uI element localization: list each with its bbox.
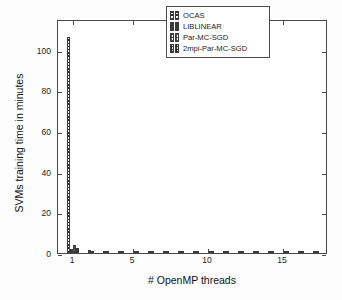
bar	[196, 251, 199, 253]
bar	[151, 251, 154, 253]
legend-swatch-group	[170, 22, 179, 31]
y-tick-label: 100	[37, 46, 51, 56]
bar	[67, 37, 70, 253]
x-axis-title: # OpenMP threads	[57, 274, 327, 286]
bar	[316, 251, 319, 253]
x-tick-label: 10	[202, 255, 211, 265]
y-tick-mark	[58, 92, 62, 93]
x-tick-mark	[73, 249, 74, 253]
legend-swatch	[175, 22, 179, 31]
bar	[121, 251, 124, 253]
bar	[211, 251, 214, 253]
legend-swatch	[170, 22, 174, 31]
figure-canvas: SVMs training time in minutes 0204060801…	[0, 0, 342, 300]
legend-item[interactable]: LIBLINEAR	[170, 21, 265, 31]
y-tick-label: 80	[42, 86, 51, 96]
y-tick-mark	[58, 174, 62, 175]
x-tick-mark	[73, 21, 74, 25]
x-tick-mark	[133, 249, 134, 253]
y-tick-mark	[322, 214, 326, 215]
y-tick-label: 0	[46, 249, 51, 259]
y-tick-label: 60	[42, 127, 51, 137]
bar	[91, 251, 94, 253]
x-tick-mark	[283, 249, 284, 253]
bar	[286, 251, 289, 253]
x-tick-label: 5	[130, 255, 135, 265]
y-tick-mark	[322, 174, 326, 175]
legend-item[interactable]: Par-MC-SGD	[170, 32, 265, 42]
x-tick-mark	[208, 249, 209, 253]
legend-label: LIBLINEAR	[183, 22, 222, 31]
x-tick-mark	[133, 21, 134, 25]
x-axis-tick-labels: 151015	[57, 255, 327, 271]
x-tick-label: 15	[277, 255, 286, 265]
bar	[271, 251, 274, 253]
legend-swatch-group	[170, 11, 179, 20]
legend-item[interactable]: OCAS	[170, 10, 265, 20]
bar	[136, 251, 139, 253]
bar	[76, 248, 79, 253]
legend-swatch	[175, 44, 179, 53]
legend-swatch	[170, 44, 174, 53]
bar	[301, 251, 304, 253]
legend-swatch	[175, 33, 179, 42]
y-tick-mark	[322, 133, 326, 134]
legend-label: Par-MC-SGD	[183, 33, 228, 42]
bar	[106, 251, 109, 253]
x-tick-mark	[283, 21, 284, 25]
legend-label: 2mpi-Par-MC-SGD	[183, 44, 247, 53]
legend-swatch-group	[170, 44, 179, 53]
y-tick-mark	[58, 214, 62, 215]
legend-swatch-group	[170, 33, 179, 42]
legend-label: OCAS	[183, 11, 205, 20]
bar	[256, 251, 259, 253]
bar	[181, 251, 184, 253]
y-tick-mark	[58, 133, 62, 134]
y-tick-mark	[322, 52, 326, 53]
legend-swatch	[170, 11, 174, 20]
y-tick-label: 20	[42, 208, 51, 218]
bar	[226, 251, 229, 253]
x-tick-label: 1	[70, 255, 75, 265]
legend-item[interactable]: 2mpi-Par-MC-SGD	[170, 43, 265, 53]
y-tick-label: 40	[42, 168, 51, 178]
legend-swatch	[175, 11, 179, 20]
chart-legend: OCASLIBLINEARPar-MC-SGD2mpi-Par-MC-SGD	[166, 6, 270, 58]
bar	[166, 251, 169, 253]
bar	[241, 251, 244, 253]
legend-swatch	[170, 33, 174, 42]
y-tick-mark	[322, 92, 326, 93]
y-axis-tick-labels: 020406080100	[0, 20, 55, 254]
y-tick-mark	[58, 52, 62, 53]
